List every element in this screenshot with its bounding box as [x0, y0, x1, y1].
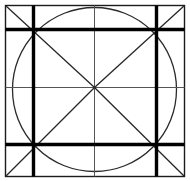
figure-svg	[0, 0, 190, 181]
geometric-figure-canvas	[0, 0, 190, 181]
